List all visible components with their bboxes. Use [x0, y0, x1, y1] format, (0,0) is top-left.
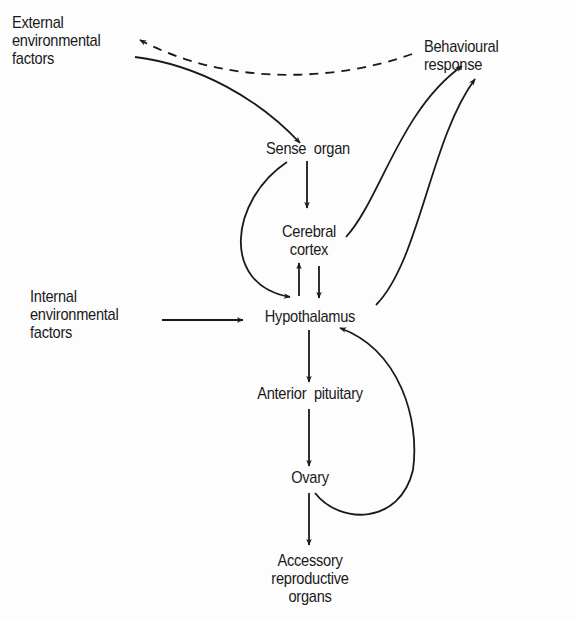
- node-internal-environmental-factors: Internal environmental factors: [30, 288, 118, 342]
- node-line: response: [424, 56, 498, 74]
- node-line: cortex: [266, 241, 352, 259]
- node-line: environmental: [12, 32, 100, 50]
- node-line: Cerebral: [266, 223, 352, 241]
- node-line: Accessory: [254, 552, 366, 570]
- node-line: factors: [30, 324, 118, 342]
- node-line: Behavioural: [424, 38, 498, 56]
- edge-external-to-sense: [135, 57, 300, 143]
- node-line: External: [12, 14, 100, 32]
- node-behavioural-response: Behavioural response: [424, 38, 498, 74]
- node-hypothalamus: Hypothalamus: [250, 308, 370, 326]
- node-cerebral-cortex: Cerebral cortex: [266, 223, 352, 259]
- edge-cortex-to-behavioural: [346, 66, 462, 237]
- node-external-environmental-factors: External environmental factors: [12, 14, 100, 68]
- node-line: environmental: [30, 306, 118, 324]
- edge-hypothalamus-to-behavioural: [376, 79, 475, 305]
- node-sense-organ: Sense organ: [256, 140, 359, 158]
- node-line: reproductive: [254, 570, 366, 588]
- node-line: factors: [12, 50, 100, 68]
- edge-behavioural-to-external-dashed: [140, 40, 412, 75]
- node-line: Internal: [30, 288, 118, 306]
- node-ovary: Ovary: [276, 469, 345, 487]
- node-accessory-reproductive-organs: Accessory reproductive organs: [254, 552, 366, 606]
- diagram-canvas: External environmental factors Behaviour…: [0, 0, 577, 622]
- node-line: organs: [254, 588, 366, 606]
- node-anterior-pituitary: Anterior pituitary: [237, 385, 383, 403]
